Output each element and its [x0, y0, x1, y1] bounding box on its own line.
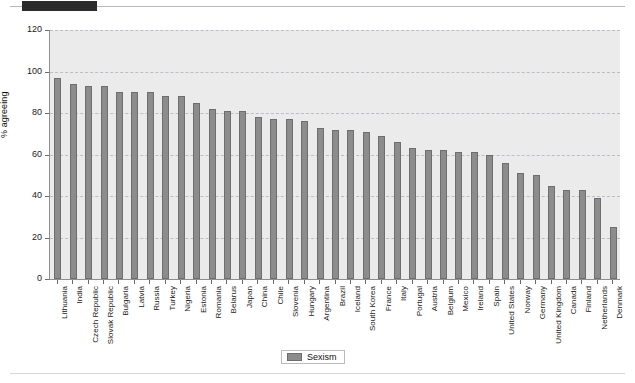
y-tick-mark-0 [45, 279, 49, 280]
bar[interactable] [131, 92, 138, 279]
x-tick-mark [396, 280, 397, 284]
bar[interactable] [594, 198, 601, 279]
footer-rule [10, 373, 625, 374]
x-tick-label: Finland [584, 286, 593, 313]
bar[interactable] [440, 150, 447, 279]
x-tick-mark [180, 280, 181, 284]
x-tick-mark [535, 280, 536, 284]
bar[interactable] [193, 103, 200, 279]
y-tick-mark-20 [45, 238, 49, 239]
bar[interactable] [409, 148, 416, 279]
y-axis-label: % agreeing [0, 91, 9, 138]
bar[interactable] [610, 227, 617, 279]
x-tick-mark [165, 280, 166, 284]
x-tick-label: Estonia [199, 286, 208, 313]
x-tick-label: China [260, 286, 269, 307]
bar[interactable] [286, 119, 293, 279]
x-tick-mark [88, 280, 89, 284]
bar[interactable] [224, 111, 231, 279]
x-tick-label: Japan [245, 286, 254, 308]
bar[interactable] [332, 130, 339, 279]
bar[interactable] [347, 130, 354, 279]
x-tick-label: Belgium [446, 286, 455, 315]
x-tick-mark [381, 280, 382, 284]
bar[interactable] [270, 119, 277, 279]
bar[interactable] [239, 111, 246, 279]
y-tick-mark-120 [45, 30, 49, 31]
figure-container: 020406080100120 % agreeing LithuaniaIndi… [0, 0, 635, 383]
bar[interactable] [147, 92, 154, 279]
x-tick-label: Turkey [168, 286, 177, 310]
x-tick-label: India [75, 286, 84, 304]
x-tick-mark [504, 280, 505, 284]
x-tick-mark [273, 280, 274, 284]
x-tick-label: Canada [569, 286, 578, 314]
x-tick-mark [597, 280, 598, 284]
bar[interactable] [486, 155, 493, 280]
legend[interactable]: Sexism [281, 350, 345, 364]
bar[interactable] [425, 150, 432, 279]
bar[interactable] [363, 132, 370, 279]
bar[interactable] [471, 152, 478, 279]
bar[interactable] [455, 152, 462, 279]
y-tick-mark-100 [45, 72, 49, 73]
x-tick-label: Italy [399, 286, 408, 301]
x-tick-mark [211, 280, 212, 284]
y-tick-label-120: 120 [0, 25, 42, 34]
x-tick-mark [103, 280, 104, 284]
bar[interactable] [101, 86, 108, 279]
x-tick-mark [489, 280, 490, 284]
x-tick-mark [520, 280, 521, 284]
x-tick-mark [412, 280, 413, 284]
legend-swatch-sexism [287, 353, 302, 361]
x-tick-label: Iceland [353, 286, 362, 312]
x-tick-mark [57, 280, 58, 284]
bar[interactable] [85, 86, 92, 279]
bars-group [50, 30, 620, 279]
x-tick-mark [551, 280, 552, 284]
bar[interactable] [579, 190, 586, 279]
x-tick-label: United States [507, 286, 516, 335]
bar[interactable] [255, 117, 262, 279]
bar[interactable] [301, 121, 308, 279]
x-tick-label: Netherlands [600, 286, 609, 330]
bar[interactable] [394, 142, 401, 279]
bar[interactable] [54, 78, 61, 279]
x-tick-mark [149, 280, 150, 284]
bar[interactable] [548, 186, 555, 279]
bar[interactable] [178, 96, 185, 279]
x-tick-label: Germany [538, 286, 547, 319]
x-tick-mark [473, 280, 474, 284]
header-rule [10, 6, 625, 7]
bar[interactable] [378, 136, 385, 279]
x-tick-mark [242, 280, 243, 284]
x-tick-mark [304, 280, 305, 284]
x-tick-mark [335, 280, 336, 284]
bar[interactable] [209, 109, 216, 279]
x-tick-mark [257, 280, 258, 284]
y-tick-label-0: 0 [0, 274, 42, 283]
x-tick-label: Austria [430, 286, 439, 311]
x-tick-label: Nigeria [183, 286, 192, 312]
bar[interactable] [502, 163, 509, 279]
y-tick-mark-60 [45, 155, 49, 156]
x-tick-label: Ireland [476, 286, 485, 311]
bar[interactable] [517, 173, 524, 279]
x-tick-label: United Kingdom [554, 286, 563, 344]
x-tick-mark [72, 280, 73, 284]
x-tick-mark [581, 280, 582, 284]
bar[interactable] [162, 96, 169, 279]
x-tick-label: Russia [152, 286, 161, 311]
x-tick-mark [443, 280, 444, 284]
x-tick-label: Hungary [307, 286, 316, 317]
bar[interactable] [317, 128, 324, 279]
x-tick-label: Romania [214, 286, 223, 318]
bar[interactable] [563, 190, 570, 279]
bar[interactable] [116, 92, 123, 279]
x-tick-label: Brazil [338, 286, 347, 306]
x-tick-label: Lithuania [60, 286, 69, 319]
bar[interactable] [70, 84, 77, 279]
x-tick-mark [566, 280, 567, 284]
bar[interactable] [533, 175, 540, 279]
x-tick-mark [118, 280, 119, 284]
